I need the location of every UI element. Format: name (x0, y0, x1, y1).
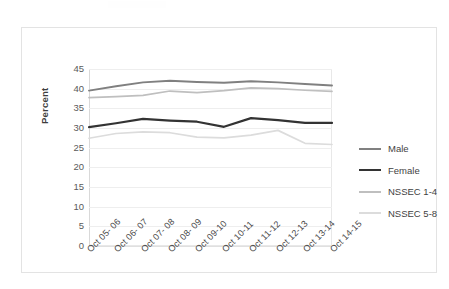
chart-legend: MaleFemaleNSSEC 1-4NSSEC 5-8 (359, 138, 449, 224)
legend-label: NSSEC 1-4 (388, 186, 437, 197)
scan-artifact (108, 1, 166, 8)
legend-item-nssec-1-4[interactable]: NSSEC 1-4 (359, 181, 449, 203)
series-lines (89, 69, 332, 246)
y-tick-label-30: 30 (73, 123, 84, 133)
y-tick-label-0: 0 (79, 241, 84, 251)
line-series-female (89, 118, 332, 127)
y-axis-title: Percent (39, 64, 50, 124)
chart-frame: Percent 051015202530354045 Oct 05- 06Oct… (21, 27, 437, 273)
y-axis-tick-labels: 051015202530354045 (56, 62, 84, 253)
plot-area (89, 69, 332, 246)
y-tick-label-35: 35 (73, 103, 84, 113)
y-tick-label-20: 20 (73, 162, 84, 172)
y-tick-label-25: 25 (73, 143, 84, 153)
legend-label: Female (388, 165, 420, 176)
legend-line-swatch-icon (359, 148, 381, 150)
y-tick-label-10: 10 (73, 202, 84, 212)
line-series-nssec-5-8 (89, 130, 332, 144)
y-tick-label-45: 45 (73, 64, 84, 74)
legend-item-male[interactable]: Male (359, 138, 449, 160)
legend-label: Male (388, 143, 409, 154)
chart-screenshot: Percent 051015202530354045 Oct 05- 06Oct… (0, 0, 449, 289)
legend-line-swatch-icon (359, 191, 381, 193)
legend-line-swatch-icon (359, 212, 381, 214)
y-tick-label-40: 40 (73, 84, 84, 94)
y-tick-label-15: 15 (73, 182, 84, 192)
x-axis-tick-labels: Oct 05- 06Oct 06- 07Oct 07- 08Oct 08- 09… (89, 247, 332, 289)
legend-line-swatch-icon (359, 169, 381, 171)
legend-item-female[interactable]: Female (359, 160, 449, 182)
legend-item-nssec-5-8[interactable]: NSSEC 5-8 (359, 203, 449, 225)
line-series-nssec-1-4 (89, 88, 332, 98)
y-tick-label-5: 5 (79, 221, 84, 231)
legend-label: NSSEC 5-8 (388, 208, 437, 219)
